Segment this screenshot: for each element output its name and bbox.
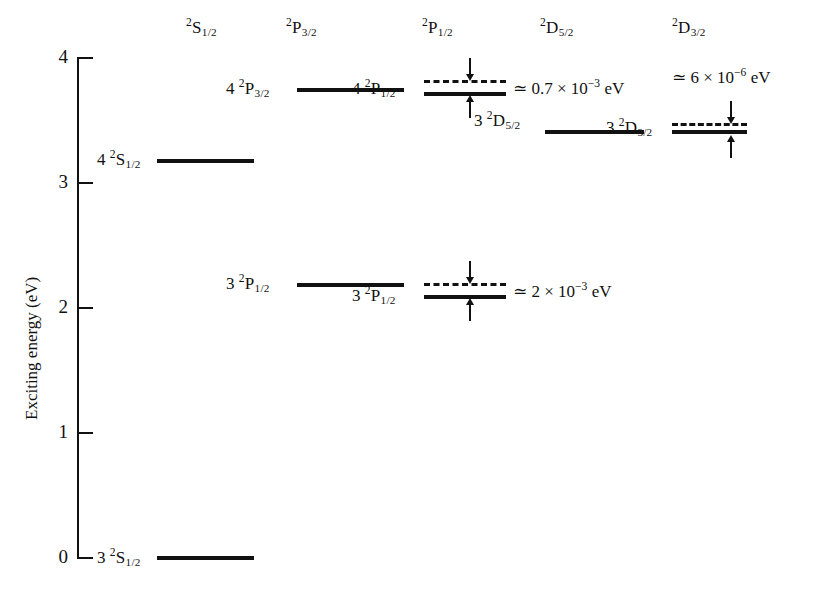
- splitting-annotation-4p-exponent: −3: [588, 77, 600, 90]
- column-header-p12: 2P1/2: [422, 18, 453, 38]
- splitting-annotation-4p: ≃ 0.7 × 10−3 eV: [513, 78, 624, 99]
- y-axis-title: Exciting energy (eV): [22, 277, 42, 420]
- level-label-3d52-letter: D: [493, 111, 506, 130]
- level-label-4p32: 4 2P3/2: [226, 79, 270, 99]
- splitting-annotation-3d-value: ≃ 6 × 10: [672, 68, 734, 87]
- level-label-3p12-n: 3: [352, 286, 361, 305]
- level-label-3p32-n: 3: [226, 274, 235, 293]
- y-axis-tick-label-0: 0: [40, 547, 68, 566]
- level-label-3s12: 3 2S1/2: [97, 548, 141, 568]
- level-label-4s12-subscript: 1/2: [126, 158, 141, 170]
- level-label-4p12-n: 4: [352, 79, 361, 98]
- level-label-3d52-n: 3: [474, 111, 483, 130]
- level-label-3s12-subscript: 1/2: [126, 556, 141, 568]
- level-label-4p12-letter: P: [371, 79, 381, 98]
- level-dashed-3p12: [424, 283, 506, 286]
- splitting-annotation-4p-unit: eV: [600, 79, 624, 98]
- level-label-3p12-letter: P: [371, 286, 381, 305]
- y-axis-tick-label-1: 1: [40, 422, 68, 441]
- y-axis-tick-3: [79, 182, 93, 184]
- column-header-p12-subscript: 1/2: [438, 26, 453, 38]
- level-label-3d32: 3 2D3/2: [606, 118, 652, 138]
- level-line-4p12: [424, 92, 506, 96]
- level-line-3s12: [157, 556, 254, 560]
- level-dashed-4p12: [424, 80, 506, 83]
- level-label-3p32: 3 2P1/2: [226, 274, 270, 294]
- y-axis-tick-label-4: 4: [40, 47, 68, 66]
- level-label-3s12-letter: S: [116, 548, 126, 567]
- splitting-annotation-3p-unit: eV: [587, 282, 611, 301]
- column-header-p32-letter: P: [292, 18, 302, 37]
- column-header-s12: 2S1/2: [186, 18, 217, 38]
- level-label-3p12: 3 2P1/2: [352, 286, 396, 306]
- splitting-annotation-4p-value: ≃ 0.7 × 10: [513, 79, 588, 98]
- level-label-4p32-letter: P: [245, 79, 255, 98]
- level-line-3d32: [672, 130, 747, 134]
- level-dashed-3d32: [672, 123, 747, 126]
- level-label-3d32-letter: D: [625, 118, 638, 137]
- column-header-d32-letter: D: [678, 18, 691, 37]
- column-header-s12-letter: S: [192, 18, 202, 37]
- splitting-annotation-3p: ≃ 2 × 10−3 eV: [513, 281, 611, 302]
- level-label-3d32-n: 3: [606, 118, 615, 137]
- level-label-4p12-subscript: 1/2: [381, 87, 396, 99]
- column-header-p32-subscript: 3/2: [302, 26, 317, 38]
- y-axis-tick-4: [79, 57, 93, 59]
- column-header-p12-letter: P: [428, 18, 438, 37]
- level-label-3d32-subscript: 3/2: [637, 126, 652, 138]
- level-label-4p12: 4 2P1/2: [352, 79, 396, 99]
- column-header-d52-subscript: 5/2: [559, 26, 574, 38]
- column-header-d52-letter: D: [546, 18, 559, 37]
- splitting-annotation-3p-value: ≃ 2 × 10: [513, 282, 575, 301]
- level-label-4s12: 4 2S1/2: [97, 150, 141, 170]
- y-axis-tick-2: [79, 307, 93, 309]
- energy-level-diagram: 4 3 2 1 0 Exciting energy (eV) 2S1/2 2P3…: [0, 0, 813, 589]
- level-label-3p12-subscript: 1/2: [381, 294, 396, 306]
- level-label-4p32-subscript: 3/2: [255, 87, 270, 99]
- column-header-s12-subscript: 1/2: [202, 26, 217, 38]
- level-label-3p32-letter: P: [245, 274, 255, 293]
- splitting-annotation-3d-exponent: −6: [734, 66, 746, 79]
- splitting-annotation-3d-unit: eV: [746, 68, 770, 87]
- level-label-4s12-letter: S: [116, 150, 126, 169]
- level-label-3d52-subscript: 5/2: [505, 119, 520, 131]
- y-axis-tick-label-3: 3: [40, 172, 68, 191]
- column-header-d32-subscript: 3/2: [691, 26, 706, 38]
- column-header-d32: 2D3/2: [672, 18, 706, 38]
- level-label-4p32-n: 4: [226, 79, 235, 98]
- y-axis-tick-0: [79, 557, 93, 559]
- level-line-4s12: [157, 159, 254, 163]
- level-label-3d52: 3 2D5/2: [474, 111, 520, 131]
- y-axis-tick-1: [79, 432, 93, 434]
- column-header-p32: 2P3/2: [286, 18, 317, 38]
- level-label-4s12-n: 4: [97, 150, 106, 169]
- level-label-3p32-subscript: 1/2: [255, 282, 270, 294]
- level-label-3s12-n: 3: [97, 548, 106, 567]
- column-header-d52: 2D5/2: [540, 18, 574, 38]
- splitting-annotation-3d: ≃ 6 × 10−6 eV: [672, 67, 770, 88]
- level-line-3p12: [424, 295, 506, 299]
- splitting-annotation-3p-exponent: −3: [575, 280, 587, 293]
- y-axis-tick-label-2: 2: [40, 297, 68, 316]
